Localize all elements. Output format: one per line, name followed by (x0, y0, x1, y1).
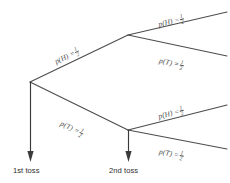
branch-first-heads (30, 35, 128, 82)
second-toss-arrow-head (125, 151, 131, 162)
caption-first-toss: 1st toss (13, 166, 40, 175)
label-text-second-tails-upper: p(T) = (158, 56, 180, 69)
branch-first-tails (30, 82, 128, 130)
label-text-second-tails-lower: p(T) = (158, 147, 180, 160)
caption-second-toss: 2nd toss (109, 166, 138, 175)
tree-branches-svg (0, 0, 230, 183)
probability-tree-diagram: p(H) =12 p(T) =12 p(H) =12 p(T) =12 p(H)… (0, 0, 230, 183)
branch-second-tails-lower (128, 130, 227, 149)
branch-second-tails-upper (128, 35, 227, 56)
first-toss-arrow-head (27, 151, 33, 162)
